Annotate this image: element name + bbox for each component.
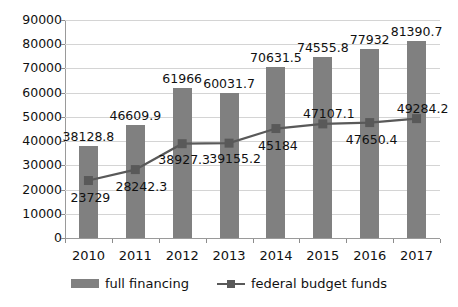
x-axis-tickmark: [206, 239, 207, 243]
line-marker: [131, 165, 140, 174]
x-axis-tick-label: 2016: [353, 248, 386, 263]
line-marker: [178, 139, 187, 148]
y-axis-tick-label: 50000: [4, 111, 62, 123]
x-axis-tick-label: 2011: [119, 248, 152, 263]
y-axis-tick-label: 30000: [4, 159, 62, 171]
legend-label-full-financing: full financing: [105, 276, 189, 291]
bar-data-label: 77932: [350, 33, 390, 46]
bar-data-label: 61966: [162, 72, 202, 85]
y-axis-tick-label: 20000: [4, 184, 62, 196]
line-marker: [84, 176, 93, 185]
line-data-label: 28242.3: [115, 180, 167, 193]
legend-item-federal-budget-funds[interactable]: federal budget funds: [217, 276, 387, 291]
line-data-label: 47107.1: [303, 107, 355, 120]
x-axis-tick-label: 2010: [72, 248, 105, 263]
y-axis-tick-label: 60000: [4, 87, 62, 99]
line-data-label: 39155.2: [209, 152, 261, 165]
y-axis-tick-label: 90000: [4, 14, 62, 26]
bar-data-label: 46609.9: [109, 109, 161, 122]
x-axis-tickmark: [440, 239, 441, 243]
line-marker-icon: [217, 279, 245, 289]
bar-data-label: 70631.5: [250, 51, 302, 64]
y-axis-tick-label: 10000: [4, 208, 62, 220]
y-axis-tick-label: 70000: [4, 62, 62, 74]
x-axis-tickmark: [159, 239, 160, 243]
x-axis-tickmark: [346, 239, 347, 243]
line-marker: [225, 139, 234, 148]
x-axis-tick-label: 2014: [259, 248, 292, 263]
bar-data-label: 38128.8: [63, 130, 115, 143]
line-marker: [271, 124, 280, 133]
x-axis-tick-label: 2012: [166, 248, 199, 263]
y-axis-tick-label: 0: [4, 232, 62, 244]
line-data-label: 45184: [258, 139, 298, 152]
line-data-label: 47650.4: [346, 133, 398, 146]
legend-item-full-financing[interactable]: full financing: [71, 276, 189, 291]
x-axis-tickmark: [112, 239, 113, 243]
x-axis-tick-label: 2017: [400, 248, 433, 263]
y-axis-tick-label: 40000: [4, 135, 62, 147]
line-data-label: 23729: [71, 191, 111, 204]
line-data-label: 38927.3: [158, 153, 210, 166]
line-marker: [365, 118, 374, 127]
bar-swatch-icon: [71, 279, 99, 288]
legend-label-federal-budget-funds: federal budget funds: [251, 276, 387, 291]
chart-container: 9000080000700006000050000400003000020000…: [0, 0, 458, 307]
bar-data-label: 74555.8: [297, 41, 349, 54]
x-axis-tick-label: 2013: [213, 248, 246, 263]
y-axis-tick-label: 80000: [4, 38, 62, 50]
x-axis-tickmark: [393, 239, 394, 243]
y-axis-labels: 9000080000700006000050000400003000020000…: [0, 20, 62, 238]
chart-legend: full financing federal budget funds: [0, 276, 458, 291]
x-axis-tickmark: [65, 239, 66, 243]
x-axis-tick-label: 2015: [306, 248, 339, 263]
bar-data-label: 81390.7: [391, 25, 443, 38]
x-axis-tickmark: [299, 239, 300, 243]
line-data-label: 49284.2: [397, 102, 449, 115]
x-axis-tickmark: [253, 239, 254, 243]
bar-data-label: 60031.7: [203, 77, 255, 90]
